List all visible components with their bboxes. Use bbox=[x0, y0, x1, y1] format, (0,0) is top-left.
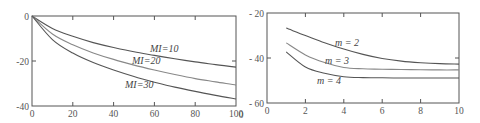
x-tick-label: 8 bbox=[418, 106, 423, 116]
y-tick-label: -40 bbox=[16, 102, 29, 112]
y-tick-label: - 60 bbox=[249, 99, 264, 109]
series-line bbox=[286, 28, 459, 64]
chart-left: 0204060801000-20-40MI=10MI=20MI=30 bbox=[16, 12, 243, 120]
x-tick-label: 40 bbox=[109, 109, 119, 119]
series-label: m = 2 bbox=[335, 37, 359, 48]
series-label: MI=20 bbox=[131, 55, 160, 66]
y-tick-label: -20 bbox=[16, 57, 29, 67]
x-tick-label: 6 bbox=[380, 106, 385, 116]
x-tick-label: 20 bbox=[68, 109, 78, 119]
series-label: MI=10 bbox=[149, 43, 178, 54]
chart-right: 0246810- 20- 40- 60m = 2m = 3m = 4 bbox=[249, 9, 464, 117]
stray-tick-label: 0 bbox=[239, 110, 244, 120]
series-line bbox=[32, 16, 236, 85]
series-label: MI=30 bbox=[124, 79, 153, 90]
y-tick-label: 0 bbox=[24, 12, 29, 22]
x-tick-label: 60 bbox=[150, 109, 160, 119]
x-tick-label: 10 bbox=[454, 106, 464, 116]
y-tick-label: - 20 bbox=[249, 9, 264, 19]
series-line bbox=[286, 52, 459, 78]
series-label: m = 4 bbox=[317, 75, 341, 86]
x-tick-label: 2 bbox=[303, 106, 308, 116]
x-tick-label: 80 bbox=[190, 109, 200, 119]
plot-frame bbox=[267, 13, 459, 103]
series-label: m = 3 bbox=[325, 55, 349, 66]
x-tick-label: 0 bbox=[265, 106, 270, 116]
x-tick-label: 0 bbox=[30, 109, 35, 119]
y-tick-label: - 40 bbox=[249, 54, 264, 64]
x-tick-label: 4 bbox=[341, 106, 346, 116]
charts-canvas: 0204060801000-20-40MI=10MI=20MI=30 02468… bbox=[0, 0, 480, 123]
